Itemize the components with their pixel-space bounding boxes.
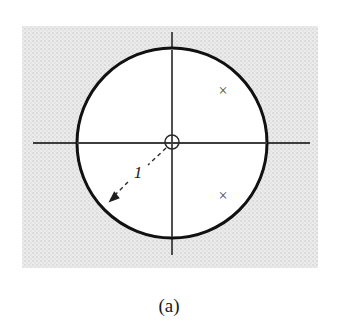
pole-zero-diagram: 1 × × (a) [0, 0, 337, 326]
radius-label: 1 [134, 163, 143, 182]
pole-marker-upper: × [218, 82, 227, 99]
figure-canvas: 1 × × (a) [0, 0, 337, 326]
pole-marker-lower: × [218, 187, 227, 204]
figure-caption: (a) [158, 295, 179, 317]
